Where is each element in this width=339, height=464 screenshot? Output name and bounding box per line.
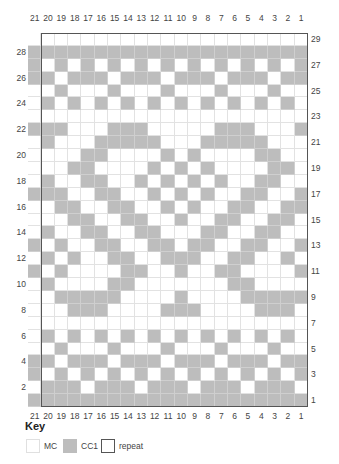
cell-mc <box>68 123 81 136</box>
cell-mc <box>95 59 108 72</box>
cell-cc1 <box>135 72 148 85</box>
cell-cc1 <box>121 214 134 227</box>
row-label: 2 <box>6 381 26 394</box>
cell-cc1 <box>148 330 161 343</box>
cell-cc1 <box>281 381 294 394</box>
cell-cc1 <box>161 394 174 407</box>
cell-mc <box>28 214 41 227</box>
cell-cc1 <box>268 343 281 356</box>
cell-mc <box>95 110 108 123</box>
cell-mc <box>281 149 294 162</box>
cell-cc1 <box>295 59 308 72</box>
cell-mc <box>295 214 308 227</box>
cell-cc1 <box>268 162 281 175</box>
column-labels-bottom: 212019181716151413121110987654321 <box>28 411 308 423</box>
cell-cc1 <box>161 304 174 317</box>
cell-mc <box>241 343 254 356</box>
cell-cc1 <box>175 162 188 175</box>
cell-mc <box>175 201 188 214</box>
row-label: 16 <box>6 201 26 214</box>
cell-mc <box>55 162 68 175</box>
cell-cc1 <box>228 46 241 59</box>
cell-mc <box>135 110 148 123</box>
cell-mc <box>241 97 254 110</box>
cell-mc <box>68 59 81 72</box>
cell-cc1 <box>295 368 308 381</box>
cell-cc1 <box>55 291 68 304</box>
cell-cc1 <box>55 265 68 278</box>
cell-mc <box>295 85 308 98</box>
column-label: 11 <box>161 411 174 423</box>
column-label: 1 <box>295 411 308 423</box>
cell-mc <box>81 252 94 265</box>
row-label: 27 <box>311 59 331 72</box>
cell-mc <box>175 239 188 252</box>
cell-mc <box>241 265 254 278</box>
cell-cc1 <box>215 381 228 394</box>
cell-mc <box>55 317 68 330</box>
cell-cc1 <box>161 59 174 72</box>
cell-mc <box>148 343 161 356</box>
cell-mc <box>81 110 94 123</box>
cell-mc <box>241 317 254 330</box>
cell-cc1 <box>268 214 281 227</box>
row-label: 7 <box>311 317 331 330</box>
cell-cc1 <box>68 72 81 85</box>
cell-mc <box>148 265 161 278</box>
row-label: 12 <box>6 252 26 265</box>
cell-mc <box>41 162 54 175</box>
cell-mc <box>268 265 281 278</box>
cell-mc <box>68 85 81 98</box>
cell-cc1 <box>55 368 68 381</box>
cell-cc1 <box>41 72 54 85</box>
cell-cc1 <box>81 368 94 381</box>
cell-mc <box>148 304 161 317</box>
cell-mc <box>215 188 228 201</box>
cell-cc1 <box>295 355 308 368</box>
cell-mc <box>81 330 94 343</box>
cell-mc <box>95 265 108 278</box>
cell-cc1 <box>55 381 68 394</box>
cell-cc1 <box>255 330 268 343</box>
cell-mc <box>41 201 54 214</box>
cell-cc1 <box>228 136 241 149</box>
cell-cc1 <box>268 149 281 162</box>
cell-mc <box>68 136 81 149</box>
cell-cc1 <box>108 59 121 72</box>
cell-cc1 <box>188 252 201 265</box>
row-label: 8 <box>6 304 26 317</box>
cell-mc <box>175 343 188 356</box>
cell-mc <box>268 252 281 265</box>
cell-mc <box>108 175 121 188</box>
cell-cc1 <box>228 278 241 291</box>
cell-mc <box>28 162 41 175</box>
cell-mc <box>281 110 294 123</box>
cell-cc1 <box>148 381 161 394</box>
cell-cc1 <box>135 59 148 72</box>
cell-cc1 <box>41 123 54 136</box>
cell-mc <box>135 381 148 394</box>
cell-mc <box>135 330 148 343</box>
column-label: 11 <box>161 13 174 25</box>
cell-mc <box>188 291 201 304</box>
cell-mc <box>121 175 134 188</box>
cell-mc <box>108 330 121 343</box>
cell-mc <box>188 85 201 98</box>
cell-cc1 <box>255 46 268 59</box>
cell-mc <box>121 291 134 304</box>
cell-cc1 <box>188 304 201 317</box>
cell-mc <box>255 317 268 330</box>
cell-mc <box>175 226 188 239</box>
cell-mc <box>148 85 161 98</box>
cell-mc <box>41 110 54 123</box>
cell-mc <box>188 278 201 291</box>
cell-mc <box>135 33 148 46</box>
cell-cc1 <box>281 72 294 85</box>
cell-mc <box>81 97 94 110</box>
cell-cc1 <box>55 123 68 136</box>
cell-mc <box>81 123 94 136</box>
cell-mc <box>81 381 94 394</box>
cell-mc <box>55 110 68 123</box>
cell-cc1 <box>268 381 281 394</box>
cell-cc1 <box>41 330 54 343</box>
